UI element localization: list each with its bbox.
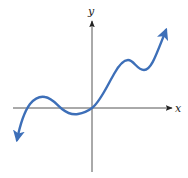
- x-axis-label: x: [175, 102, 182, 115]
- y-axis-label: y: [87, 5, 95, 18]
- function-graph: y x: [0, 0, 188, 178]
